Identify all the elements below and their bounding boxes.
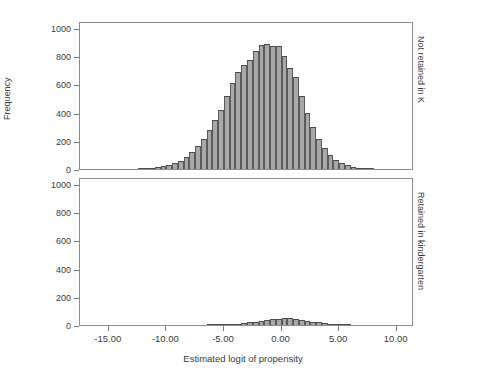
y-axis-tick	[74, 142, 79, 143]
plot-area-top	[79, 22, 413, 170]
x-axis-tick-label: -15.00	[94, 333, 121, 344]
x-axis-tick	[223, 326, 224, 331]
x-axis-tick-label: 0.00	[271, 333, 290, 344]
y-axis-bottom: 02004006008001000	[39, 178, 79, 326]
y-axis-tick	[74, 114, 79, 115]
y-axis-tick-label: 600	[56, 80, 71, 90]
y-axis-tick-label: 200	[56, 137, 71, 147]
x-axis-tick	[281, 326, 282, 331]
plot-area-bottom	[79, 178, 413, 326]
histogram-bar	[345, 324, 351, 325]
strip-label-not-retained: Not retained in K	[416, 36, 426, 103]
y-axis-tick	[74, 298, 79, 299]
x-axis-tick	[396, 326, 397, 331]
histogram-figure: Frequency 02004006008001000 Not retained…	[0, 0, 486, 379]
x-axis-tick	[338, 326, 339, 331]
y-axis-tick	[74, 170, 79, 171]
y-axis-tick-label: 1000	[51, 180, 71, 190]
x-axis-title: Estimated logit of propensity	[0, 353, 486, 364]
y-axis-tick-label: 0	[66, 321, 71, 331]
y-axis-top: 02004006008001000	[39, 22, 79, 170]
x-axis-tick	[165, 326, 166, 331]
strip-label-retained: Retained in kindergarten	[416, 192, 426, 290]
y-axis-tick	[74, 241, 79, 242]
y-axis-tick	[74, 270, 79, 271]
y-axis-tick	[74, 57, 79, 58]
x-axis-tick	[108, 326, 109, 331]
x-axis-tick-label: 10.00	[384, 333, 408, 344]
x-axis-tick-label: 5.00	[329, 333, 348, 344]
y-axis-tick-label: 800	[56, 52, 71, 62]
y-axis-tick-label: 800	[56, 208, 71, 218]
y-axis-tick-label: 200	[56, 293, 71, 303]
histogram-bar	[368, 168, 374, 169]
histogram-bars-bottom	[80, 179, 412, 325]
y-axis-tick	[74, 185, 79, 186]
x-axis-tick-label: -10.00	[152, 333, 179, 344]
y-axis-tick-label: 600	[56, 236, 71, 246]
y-axis-tick-label: 1000	[51, 24, 71, 34]
y-axis-tick-label: 400	[56, 109, 71, 119]
y-axis-tick	[74, 29, 79, 30]
y-axis-tick	[74, 85, 79, 86]
y-axis-tick	[74, 213, 79, 214]
x-axis-tick-label: -5.00	[212, 333, 234, 344]
y-axis-tick-label: 400	[56, 265, 71, 275]
histogram-bars-top	[80, 23, 412, 169]
y-axis-title: Frequency	[2, 77, 12, 120]
y-axis-tick-label: 0	[66, 165, 71, 175]
x-axis: -15.00-10.00-5.000.005.0010.00	[79, 326, 413, 350]
